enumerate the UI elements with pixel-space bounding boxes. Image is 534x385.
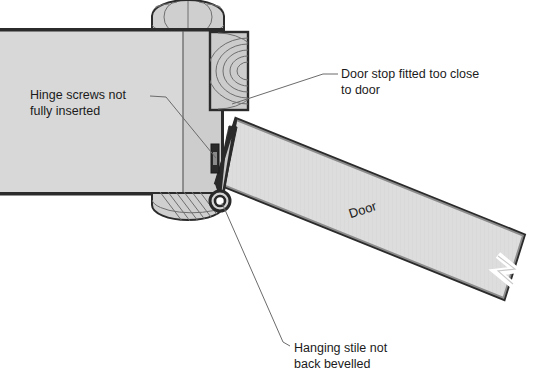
annotation-hanging-stile-line-2: back bevelled xyxy=(294,357,370,371)
annotation-hanging-stile-line-1: Hanging stile not xyxy=(294,341,388,355)
door-hinge-defect-diagram: Hinge screws not fully inserted Door sto… xyxy=(0,0,534,385)
diagram-canvas: Hinge screws not fully inserted Door sto… xyxy=(0,0,534,385)
annotation-hinge-screws-line-1: Hinge screws not xyxy=(30,88,126,102)
hinge-knuckle xyxy=(210,191,230,211)
annotation-hinge-screws-line-2: fully inserted xyxy=(30,104,100,118)
hinge-leaf xyxy=(211,144,219,173)
hinge-screw-head xyxy=(213,152,217,165)
annotation-door-stop-line-1: Door stop fitted too close xyxy=(341,67,479,81)
annotation-door-stop-line-2: to door xyxy=(341,83,380,97)
